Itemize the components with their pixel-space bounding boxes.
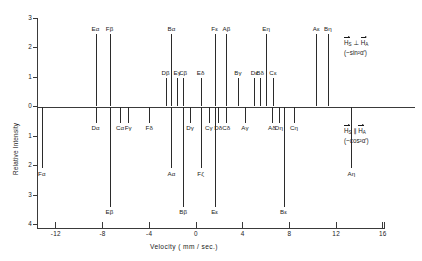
x-tick-label: -8 — [93, 231, 113, 237]
y-tick — [33, 77, 38, 78]
y-tick — [33, 106, 38, 107]
x-tick — [196, 222, 197, 228]
spectrum-stick — [254, 78, 255, 106]
y-tick — [33, 165, 38, 166]
spectrum-stick — [177, 78, 178, 106]
spectrum-stick — [245, 107, 246, 123]
stick-label: Fδ — [140, 125, 158, 131]
spectrum-stick — [96, 107, 97, 123]
spectrum-stick — [328, 34, 329, 106]
spectrum-stick — [272, 107, 273, 123]
stick-label: Aα — [162, 171, 180, 177]
spectrum-stick — [110, 34, 111, 106]
x-tick — [149, 222, 150, 228]
stick-label: Dα — [87, 125, 105, 131]
stick-label: Aβ — [217, 26, 235, 32]
spectrum-stick — [260, 78, 261, 106]
annotation-perpendicular: HS ⊥ HA (~sin²α′) — [344, 39, 368, 57]
spectrum-stick — [209, 107, 210, 123]
spectrum-stick — [128, 107, 129, 123]
annotation-parallel-formula: (~cos²α′) — [344, 137, 369, 146]
y-tick-label: 0 — [24, 103, 32, 109]
x-tick-label: -12 — [46, 231, 66, 237]
x-tick — [242, 222, 243, 228]
stick-label: Cδ — [217, 125, 235, 131]
stick-label: Bη — [319, 26, 337, 32]
x-axis-line — [37, 228, 385, 229]
y-tick — [33, 224, 38, 225]
spectrum-stick — [284, 107, 285, 207]
spectrum-stick — [149, 107, 150, 123]
stick-label: Eβ — [101, 209, 119, 215]
spectrum-stick — [110, 107, 111, 207]
stick-label: Eη — [257, 26, 275, 32]
stick-label: Cε — [264, 70, 282, 76]
stick-label: Aγ — [236, 125, 254, 131]
x-axis-right-cap — [384, 222, 385, 228]
y-axis-line — [37, 18, 38, 228]
spectrum-stick — [190, 107, 191, 123]
stick-label: Cβ — [174, 70, 192, 76]
spectrum-stick — [279, 107, 280, 123]
y-tick — [33, 47, 38, 48]
x-tick-label: 0 — [186, 231, 206, 237]
spectrum-stick — [171, 107, 172, 169]
y-tick — [33, 195, 38, 196]
stick-label: Fγ — [119, 125, 137, 131]
spectrum-stick — [183, 107, 184, 207]
spectrum-stick — [183, 78, 184, 106]
stick-label: Fα — [33, 171, 51, 177]
spectrum-stick — [316, 34, 317, 106]
x-tick — [55, 222, 56, 228]
y-tick — [33, 18, 38, 19]
stick-label: Fβ — [101, 26, 119, 32]
stick-label: Bγ — [229, 70, 247, 76]
stick-label: Bα — [162, 26, 180, 32]
spectrum-stick — [226, 107, 227, 123]
x-axis-label: Velocity ( mm / sec.) — [150, 243, 218, 250]
y-tick-label: 3 — [24, 15, 32, 21]
spectrum-stick — [201, 107, 202, 169]
x-axis-left-cap — [37, 222, 38, 228]
stick-label: Aη — [342, 171, 360, 177]
stick-label: Fζ — [192, 171, 210, 177]
x-tick — [382, 222, 383, 228]
x-tick-label: 12 — [326, 231, 346, 237]
stick-label: Dγ — [181, 125, 199, 131]
y-axis-label: Relative Intensity — [12, 123, 19, 175]
spectrum-stick — [42, 107, 43, 169]
y-tick-label: 2 — [24, 162, 32, 168]
y-tick-label: 2 — [24, 44, 32, 50]
spectrum-stick — [166, 78, 167, 106]
stick-label: Bβ — [174, 209, 192, 215]
spectrum-stick — [294, 107, 295, 123]
x-tick-label: -4 — [139, 231, 159, 237]
stick-label: Eε — [206, 209, 224, 215]
x-tick-label: 16 — [373, 231, 393, 237]
spectrum-stick — [201, 78, 202, 106]
spectrum-stick — [238, 78, 239, 106]
spectrum-stick — [96, 34, 97, 106]
spectrum-stick — [120, 107, 121, 123]
annotation-parallel: HS ∥ HA (~cos²α′) — [344, 127, 369, 145]
y-tick-label: 3 — [24, 192, 32, 198]
annotation-perpendicular-formula: (~sin²α′) — [344, 49, 368, 58]
x-tick — [336, 222, 337, 228]
y-tick-label: 1 — [24, 74, 32, 80]
stick-label: Bε — [275, 209, 293, 215]
x-tick-label: 4 — [233, 231, 253, 237]
spectrum-stick — [218, 107, 219, 123]
stick-spectrum-chart: Relative Intensity Velocity ( mm / sec.)… — [0, 0, 422, 261]
spectrum-stick — [226, 34, 227, 106]
spectrum-stick — [215, 107, 216, 207]
y-tick-label: 1 — [24, 133, 32, 139]
spectrum-stick — [273, 78, 274, 106]
x-tick — [289, 222, 290, 228]
stick-label: Cη — [285, 125, 303, 131]
x-tick — [102, 222, 103, 228]
spectrum-stick — [215, 34, 216, 106]
x-tick-label: 8 — [279, 231, 299, 237]
y-tick-label: 4 — [24, 221, 32, 227]
stick-label: Eδ — [192, 70, 210, 76]
y-tick — [33, 136, 38, 137]
